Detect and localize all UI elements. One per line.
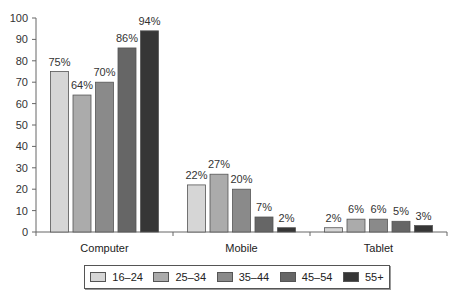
legend-label: 55+: [365, 271, 384, 283]
legend-label: 16–24: [112, 271, 143, 283]
y-tick-label: 90: [16, 33, 28, 45]
category-label: Computer: [80, 242, 129, 254]
y-tick-label: 50: [16, 119, 28, 131]
bar-value-label: 6%: [348, 203, 364, 215]
bar: [392, 221, 410, 232]
bar-value-label: 2%: [279, 212, 295, 224]
bar-value-label: 22%: [185, 169, 207, 181]
bar: [51, 72, 69, 233]
y-tick-label: 20: [16, 183, 28, 195]
bar-value-label: 3%: [416, 210, 432, 222]
legend-item: 25–34: [153, 271, 206, 283]
bar-value-label: 86%: [116, 32, 138, 44]
bar-value-label: 20%: [230, 173, 252, 185]
y-tick-label: 70: [16, 76, 28, 88]
legend-swatch: [90, 272, 106, 282]
legend-swatch: [217, 272, 233, 282]
bar-value-label: 75%: [48, 56, 70, 68]
bar: [210, 174, 228, 232]
category-label: Tablet: [364, 242, 393, 254]
legend-swatch: [153, 272, 169, 282]
bar: [141, 31, 159, 232]
bar: [233, 189, 251, 232]
bar-value-label: 2%: [326, 212, 342, 224]
y-tick-label: 10: [16, 205, 28, 217]
y-tick-label: 60: [16, 98, 28, 110]
legend-label: 35–44: [239, 271, 270, 283]
y-tick-label: 100: [10, 12, 28, 24]
legend-item: 45–54: [280, 271, 333, 283]
bar-value-label: 7%: [256, 201, 272, 213]
y-tick-label: 0: [22, 226, 28, 238]
bar: [96, 82, 114, 232]
bar-value-label: 27%: [208, 158, 230, 170]
bar: [415, 226, 433, 232]
legend-swatch: [280, 272, 296, 282]
bar: [188, 185, 206, 232]
bar-value-label: 64%: [71, 79, 93, 91]
legend-item: 35–44: [217, 271, 270, 283]
legend-swatch: [343, 272, 359, 282]
legend-item: 55+: [343, 271, 384, 283]
bar: [370, 219, 388, 232]
bar: [278, 228, 296, 232]
bar: [255, 217, 273, 232]
bar: [73, 95, 91, 232]
y-tick-label: 30: [16, 162, 28, 174]
y-tick-label: 40: [16, 140, 28, 152]
legend: 16–2425–3435–4445–5455+: [84, 265, 390, 289]
legend-item: 16–24: [90, 271, 143, 283]
category-label: Mobile: [225, 242, 257, 254]
bar-value-label: 70%: [93, 66, 115, 78]
bar: [347, 219, 365, 232]
legend-label: 25–34: [175, 271, 206, 283]
bar-value-label: 94%: [138, 15, 160, 27]
legend-label: 45–54: [302, 271, 333, 283]
bar: [118, 48, 136, 232]
bar-chart: 010203040506070809010075%64%70%86%94%Com…: [0, 0, 460, 265]
bar-value-label: 6%: [371, 203, 387, 215]
bar: [325, 228, 343, 232]
bar-value-label: 5%: [393, 205, 409, 217]
y-tick-label: 80: [16, 55, 28, 67]
